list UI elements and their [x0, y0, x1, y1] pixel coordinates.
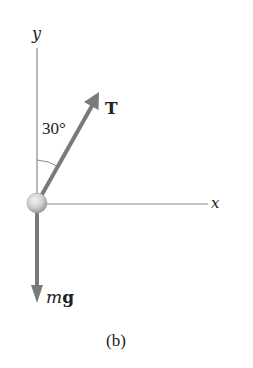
tension-label: T [105, 98, 118, 118]
free-body-diagram: y x 30° T mg (b) [0, 0, 253, 368]
weight-label: mg [46, 287, 74, 308]
ball [27, 193, 47, 213]
weight-arrow-head [31, 285, 43, 303]
weight-label-gravity: g [62, 287, 74, 307]
weight-label-mass: m [46, 287, 62, 307]
angle-arc [37, 160, 59, 167]
y-axis-label: y [32, 24, 41, 43]
x-axis-label: x [211, 194, 219, 212]
diagram-svg [0, 0, 253, 368]
figure-caption: (b) [106, 331, 126, 351]
angle-label: 30° [42, 119, 66, 139]
